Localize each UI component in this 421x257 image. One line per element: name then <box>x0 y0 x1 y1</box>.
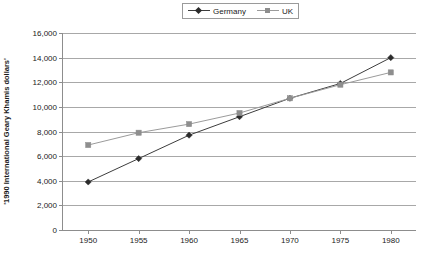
x-axis-tick <box>391 230 392 234</box>
data-point-uk-1970 <box>287 96 292 101</box>
x-axis-tick <box>139 230 140 234</box>
x-axis-tick <box>240 230 241 234</box>
y-axis-title: '1990 International Geary Khamis dollars… <box>0 33 12 230</box>
x-axis-label: 1970 <box>281 236 299 245</box>
data-point-uk-1965 <box>237 110 242 115</box>
legend-entry-uk: UK <box>257 4 293 18</box>
x-axis-label: 1960 <box>180 236 198 245</box>
x-axis-tick <box>290 230 291 234</box>
legend-marker-uk-icon <box>257 6 279 16</box>
legend-marker-germany-icon <box>188 6 210 16</box>
legend-entry-germany: Germany <box>188 4 246 18</box>
legend-label-germany: Germany <box>213 7 246 16</box>
data-series-layer <box>63 33 416 230</box>
x-axis-label: 1965 <box>231 236 249 245</box>
data-point-uk-1960 <box>186 122 191 127</box>
y-axis-label: 0 <box>53 226 57 235</box>
y-axis-label: 2,000 <box>37 201 57 210</box>
x-axis-label: 1975 <box>331 236 349 245</box>
data-point-uk-1950 <box>86 142 91 147</box>
plot-area: 02,0004,0006,0008,00010,00012,00014,0001… <box>62 33 416 231</box>
y-axis-label: 14,000 <box>33 53 57 62</box>
y-axis-label: 16,000 <box>33 29 57 38</box>
series-line-uk <box>88 72 391 145</box>
x-axis-label: 1950 <box>79 236 97 245</box>
data-point-uk-1955 <box>136 130 141 135</box>
data-point-uk-1980 <box>388 70 393 75</box>
x-axis-tick <box>340 230 341 234</box>
data-point-germany-1955 <box>136 155 142 161</box>
chart-legend: Germany UK <box>182 3 299 19</box>
line-chart: Germany UK '1990 International Geary Kha… <box>0 0 421 257</box>
data-point-germany-1950 <box>85 179 91 185</box>
y-axis-label: 8,000 <box>37 127 57 136</box>
y-axis-label: 12,000 <box>33 78 57 87</box>
y-axis-tick <box>59 230 63 231</box>
y-axis-label: 6,000 <box>37 152 57 161</box>
y-axis-label: 10,000 <box>33 102 57 111</box>
x-axis-tick <box>189 230 190 234</box>
legend-label-uk: UK <box>282 7 293 16</box>
x-axis-label: 1980 <box>382 236 400 245</box>
x-axis-label: 1955 <box>130 236 148 245</box>
data-point-uk-1975 <box>338 82 343 87</box>
data-point-germany-1960 <box>186 132 192 138</box>
y-axis-label: 4,000 <box>37 176 57 185</box>
x-axis-tick <box>88 230 89 234</box>
data-point-germany-1980 <box>388 55 394 61</box>
